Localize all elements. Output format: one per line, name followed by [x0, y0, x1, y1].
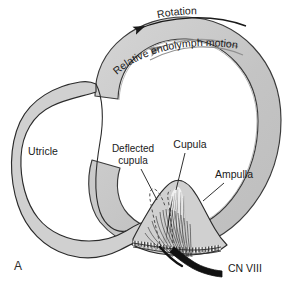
utricle-body	[11, 82, 150, 258]
deflected-cupula-label-line1: Deflected	[112, 143, 154, 154]
utricle-outline	[11, 82, 150, 258]
panel-label: A	[14, 259, 22, 273]
cn8-label: CN VIII	[228, 262, 262, 274]
ampulla-leader	[203, 183, 224, 201]
deflected-cupula-label-line2: cupula	[118, 155, 148, 166]
vestibular-canal-figure: Rotation Relative endolymph motion Utric…	[0, 0, 302, 291]
semicircular-canal-diagram: Rotation Relative endolymph motion Utric…	[0, 0, 302, 291]
cupula-label: Cupula	[173, 138, 206, 150]
ampulla-label: Ampulla	[215, 168, 253, 180]
deflected-cupula-leader	[141, 169, 157, 200]
utricle-label: Utricle	[28, 145, 58, 157]
